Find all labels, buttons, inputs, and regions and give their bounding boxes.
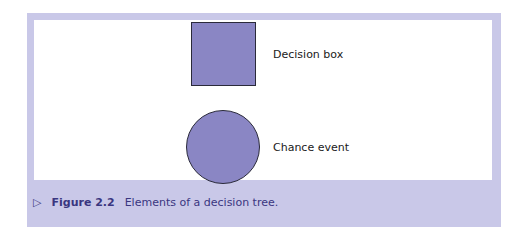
figure-caption: ▷Figure 2.2Elements of a decision tree. xyxy=(33,196,278,209)
triangle-right-icon: ▷ xyxy=(33,196,41,209)
figure-number: Figure 2.2 xyxy=(51,196,114,209)
decision-box-shape xyxy=(191,22,256,86)
chance-event-shape xyxy=(186,110,260,184)
caption-text: Elements of a decision tree. xyxy=(125,196,279,209)
figure-panel: Decision box Chance event ▷Figure 2.2Ele… xyxy=(27,13,501,227)
chance-event-label: Chance event xyxy=(273,141,349,154)
decision-box-label: Decision box xyxy=(273,48,343,61)
diagram-canvas: Decision box Chance event xyxy=(34,20,492,180)
